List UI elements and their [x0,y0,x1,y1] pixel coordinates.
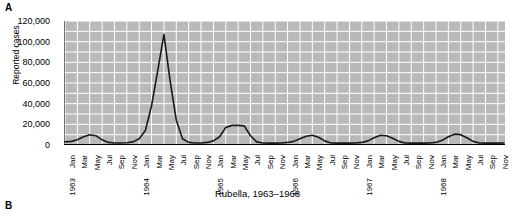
x-tick-label: Mar [451,155,460,169]
x-tick-label: Mar [303,155,312,169]
x-tick-label: Mar [80,155,89,169]
x-tick-label: Nov [352,155,361,169]
x-tick-label: Jul [105,155,114,165]
x-tick-label: Jul [179,155,188,165]
x-tick-label: Jan [365,155,374,168]
x-tick-label: Jan [439,155,448,168]
x-tick-label: Jan [142,155,151,168]
x-tick-label: Mar [377,155,386,169]
x-tick-label: Jan [216,155,225,168]
y-tick-label: 0 [45,140,50,150]
y-tick-label: 60,000 [22,78,50,88]
x-tick-label: May [93,155,102,170]
rubella-line-chart [64,21,505,145]
x-tick-label: Jan [68,155,77,168]
x-tick-label: Jul [253,155,262,165]
y-tick-label: 80,000 [22,57,50,67]
x-tick-label: Nov [204,155,213,169]
panel-b-letter: B [5,200,12,211]
x-tick-label: Jul [402,155,411,165]
x-tick-label: Sep [488,155,497,169]
x-tick-label: Sep [266,155,275,169]
x-tick-label: Mar [155,155,164,169]
x-tick-label: Jul [328,155,337,165]
figure-panel-a: A Reported cases 020,00040,00060,00080,0… [0,0,515,216]
x-tick-label: Jul [476,155,485,165]
x-tick-label: Jan [291,155,300,168]
x-tick-label: Sep [340,155,349,169]
x-tick-label: Nov [130,155,139,169]
y-tick-label: 40,000 [22,99,50,109]
x-tick-label: May [167,155,176,170]
x-tick-label: Mar [229,155,238,169]
y-tick-label: 100,000 [17,37,50,47]
x-tick-label: Sep [192,155,201,169]
x-tick-label: Sep [414,155,423,169]
x-tick-label: May [390,155,399,170]
y-tick-label: 120,000 [17,16,50,26]
x-tick-label: Nov [501,155,510,169]
x-tick-label: May [464,155,473,170]
y-axis-tick-labels: 020,00040,00060,00080,000100,000120,000 [0,0,50,216]
plot-area [64,21,505,145]
x-tick-label: Nov [278,155,287,169]
x-tick-label: Nov [427,155,436,169]
x-tick-label: May [241,155,250,170]
x-tick-label: May [315,155,324,170]
y-tick-label: 20,000 [22,119,50,129]
x-tick-label: Sep [117,155,126,169]
figure-caption: Rubella, 1963–1968 [0,188,515,199]
